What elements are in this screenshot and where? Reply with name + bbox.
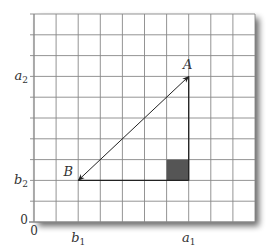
- y-tick-label: a2: [15, 68, 29, 85]
- x-tick-label: b1: [71, 230, 85, 247]
- distance-diagram: ABb1a1a2b200: [0, 0, 273, 251]
- y-origin-label: 0: [20, 213, 28, 227]
- x-origin-label: 0: [30, 224, 38, 238]
- y-tick-label: b2: [14, 172, 28, 189]
- shaded-cell: [167, 160, 189, 181]
- x-tick-label: a1: [182, 230, 196, 247]
- point-label-b: B: [62, 164, 73, 179]
- point-label-a: A: [182, 57, 192, 72]
